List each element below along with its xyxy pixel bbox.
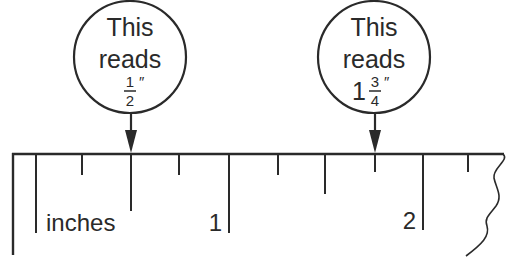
ruler-diagram: This reads 1 ″ 2 This reads 1 3 ″ 4 inch…: [0, 0, 511, 259]
ruler-ticks: [36, 154, 468, 233]
callout-circle-half-inch: [74, 1, 186, 113]
torn-edge: [466, 154, 505, 256]
arrow-down-icon: [125, 113, 137, 153]
arrow-down-icon: [369, 113, 381, 153]
callout-circle-one-three-quarters: [318, 1, 430, 113]
